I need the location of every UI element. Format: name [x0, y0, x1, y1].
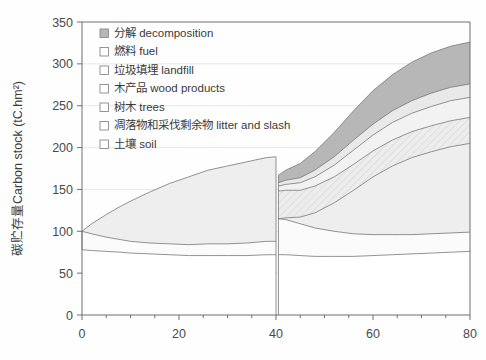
- legend-swatch: [100, 48, 109, 57]
- legend-item[interactable]: 分解 decomposition: [100, 26, 213, 39]
- y-tick-label: 0: [66, 309, 73, 323]
- x-tick-label: 80: [463, 327, 477, 341]
- x-tick-label: 20: [172, 327, 186, 341]
- y-tick-label: 350: [52, 16, 73, 30]
- legend-label: 垃圾填埋 landfill: [114, 63, 194, 76]
- legend-label: 燃料 fuel: [114, 44, 158, 57]
- y-tick-labels: 050100150200250300350: [52, 16, 73, 323]
- y-tick-label: 250: [52, 99, 73, 113]
- legend-item[interactable]: 垃圾填埋 landfill: [100, 63, 194, 76]
- legend-item[interactable]: 凋落物和采伐剩余物 litter and slash: [100, 118, 290, 131]
- y-tick-label: 200: [52, 141, 73, 155]
- y-tick-label: 50: [59, 267, 73, 281]
- legend-swatch: [100, 140, 109, 149]
- legend-label: 树木 trees: [114, 100, 165, 113]
- legend-label: 土壤 soil: [114, 137, 156, 150]
- y-axis-title-text: 碳贮存量Carbon stock (tC.hm²): [10, 81, 25, 256]
- y-tick-label: 300: [52, 57, 73, 71]
- y-tick-label: 150: [52, 183, 73, 197]
- legend-swatch: [100, 85, 109, 94]
- legend-swatch: [100, 122, 109, 131]
- x-tick-label: 60: [366, 327, 380, 341]
- legend-item[interactable]: 土壤 soil: [100, 137, 156, 150]
- legend-label: 分解 decomposition: [114, 26, 213, 39]
- legend-item[interactable]: 木产品 wood products: [100, 81, 225, 94]
- legend-swatch: [100, 66, 109, 75]
- legend-label: 凋落物和采伐剩余物 litter and slash: [114, 118, 290, 131]
- y-tick-label: 100: [52, 225, 73, 239]
- legend-item[interactable]: 燃料 fuel: [100, 44, 158, 57]
- x-tick-labels: 020406080: [79, 327, 477, 341]
- carbon-stock-chart-figure: 050100150200250300350 020406080 碳贮存量Carb…: [0, 0, 486, 360]
- x-tick-label: 40: [269, 327, 283, 341]
- chart-legend: 分解 decomposition燃料 fuel垃圾填埋 landfill木产品 …: [100, 26, 290, 150]
- y-axis-title: 碳贮存量Carbon stock (tC.hm²): [10, 81, 25, 256]
- legend-label: 木产品 wood products: [114, 81, 225, 94]
- legend-swatch: [100, 29, 109, 38]
- chart-canvas: 050100150200250300350 020406080 碳贮存量Carb…: [0, 0, 486, 360]
- legend-swatch: [100, 103, 109, 112]
- x-tick-label: 0: [79, 327, 86, 341]
